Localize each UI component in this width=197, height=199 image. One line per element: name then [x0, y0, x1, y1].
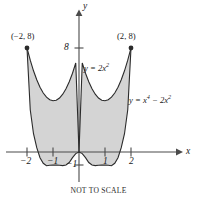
point-marker-left	[25, 46, 30, 51]
quartic-equation-lhs: y = x	[129, 95, 147, 105]
parabola-equation-lhs: y = 2x	[84, 63, 106, 73]
y-tick-label-8: 8	[64, 43, 69, 53]
quartic-equation-exponent-2: 2	[168, 93, 171, 100]
y-axis-label: y	[83, 2, 87, 12]
figure-caption: NOT TO SCALE	[0, 186, 197, 195]
x-tick-label-neg1: −1	[47, 157, 58, 167]
x-tick-label-neg2: −2	[20, 157, 31, 167]
graph-figure: x y −2 −1 1 2 8 −1 (−2, 8) (2, 8) y = 2x…	[0, 0, 197, 199]
point-marker-right	[129, 46, 134, 51]
parabola-equation-exponent: 2	[106, 61, 109, 68]
y-tick-label-neg1: −1	[66, 160, 77, 170]
point-label-right: (2, 8)	[117, 32, 136, 41]
x-tick-label-pos1: 1	[103, 157, 108, 167]
x-axis-label: x	[186, 147, 190, 157]
point-label-left: (−2, 8)	[11, 32, 34, 41]
parabola-equation-label: y = 2x2	[84, 62, 109, 72]
y-axis-arrowhead	[76, 10, 83, 17]
quartic-equation-mid: − 2x	[150, 95, 168, 105]
x-axis-arrowhead	[176, 149, 183, 156]
x-tick-label-pos2: 2	[129, 157, 134, 167]
quartic-equation-label: y = x4 − 2x2	[129, 94, 171, 104]
